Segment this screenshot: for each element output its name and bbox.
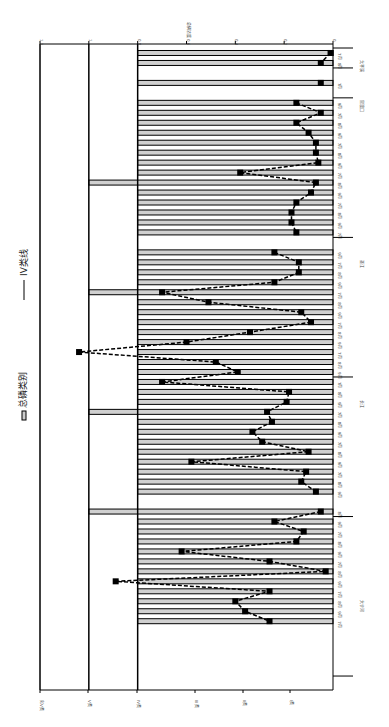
- data-point-marker: [76, 349, 82, 355]
- data-point-marker: [303, 469, 309, 475]
- data-point-marker: [308, 319, 314, 325]
- svg-text:9月: 9月: [337, 312, 342, 319]
- data-point-marker: [296, 259, 302, 265]
- svg-text:I类: I类: [289, 700, 295, 705]
- bar: [89, 409, 333, 414]
- data-point-marker: [306, 449, 312, 455]
- data-point-marker: [296, 269, 302, 275]
- svg-text:9月: 9月: [337, 372, 342, 379]
- data-point-marker: [271, 519, 277, 525]
- data-point-marker: [293, 538, 299, 544]
- data-point-marker: [313, 180, 319, 186]
- bar: [138, 60, 333, 65]
- svg-text:8月: 8月: [337, 601, 342, 608]
- bar: [138, 429, 333, 434]
- svg-text:巫江: 巫江: [359, 260, 365, 268]
- data-point-marker: [249, 429, 255, 435]
- svg-text:9月: 9月: [337, 103, 342, 110]
- bar: [138, 489, 333, 494]
- bar: [138, 350, 333, 355]
- svg-text:8月: 8月: [337, 302, 342, 309]
- bar: [138, 419, 333, 424]
- svg-text:7月: 7月: [337, 412, 342, 419]
- data-point-marker: [159, 379, 165, 385]
- bar: [89, 180, 333, 185]
- svg-text:9月: 9月: [337, 193, 342, 200]
- bar: [138, 549, 333, 554]
- svg-text:官渡口: 官渡口: [359, 100, 365, 112]
- svg-text:7月: 7月: [337, 292, 342, 299]
- data-point-marker: [306, 130, 312, 136]
- svg-text:7月: 7月: [337, 53, 342, 60]
- svg-text:7月: 7月: [337, 262, 342, 269]
- svg-text:8月: 8月: [337, 362, 342, 369]
- svg-text:9月: 9月: [337, 282, 342, 289]
- bar: [138, 459, 333, 464]
- data-point-marker: [318, 80, 324, 86]
- bar: [138, 519, 333, 524]
- bar: [138, 539, 333, 544]
- svg-text:9月: 9月: [337, 551, 342, 558]
- bar: [138, 170, 333, 175]
- svg-text:9月: 9月: [337, 163, 342, 170]
- svg-text:0.8: 0.8: [137, 39, 142, 46]
- svg-text:7月: 7月: [337, 621, 342, 628]
- svg-text:7月: 7月: [337, 442, 342, 449]
- data-point-marker: [205, 299, 211, 305]
- data-point-marker: [323, 568, 329, 574]
- svg-text:8月: 8月: [337, 422, 342, 429]
- svg-text:8月: 8月: [337, 63, 342, 70]
- svg-text:总磷浓度: 总磷浓度: [186, 22, 192, 38]
- svg-text:7月: 7月: [337, 83, 342, 90]
- bar: [138, 270, 333, 275]
- rotated-bar-line-chart: 00.20.40.60.811.2总磷浓度I类II类III类IV类V类劣V类7月…: [0, 0, 389, 727]
- svg-text:9月: 9月: [337, 252, 342, 259]
- bar: [138, 609, 333, 614]
- data-point-marker: [288, 209, 294, 215]
- svg-text:8月: 8月: [337, 541, 342, 548]
- svg-text:9月: 9月: [337, 432, 342, 439]
- data-point-marker: [293, 120, 299, 126]
- legend-line-label: IV类线: [18, 249, 29, 276]
- svg-text:9月: 9月: [337, 133, 342, 140]
- data-point-marker: [237, 170, 243, 176]
- bar: [138, 389, 333, 394]
- svg-text:9月: 9月: [337, 581, 342, 588]
- svg-text:9月: 9月: [337, 611, 342, 618]
- data-point-marker: [313, 140, 319, 146]
- svg-text:7月: 7月: [337, 382, 342, 389]
- svg-text:1.2: 1.2: [39, 39, 44, 46]
- bar: [138, 110, 333, 115]
- svg-text:8月: 8月: [337, 332, 342, 339]
- svg-text:7月: 7月: [337, 203, 342, 210]
- bar: [138, 250, 333, 255]
- bar: [138, 230, 333, 235]
- data-point-marker: [269, 419, 275, 425]
- svg-text:II类: II类: [242, 700, 248, 706]
- bar: [138, 190, 333, 195]
- data-point-marker: [318, 60, 324, 66]
- svg-text:9月: 9月: [337, 522, 342, 529]
- bar: [138, 80, 333, 85]
- svg-text:8月: 8月: [337, 571, 342, 578]
- svg-text:III类: III类: [194, 700, 200, 708]
- svg-text:V类: V类: [87, 700, 93, 707]
- svg-text:9月: 9月: [337, 402, 342, 409]
- legend-bar-label: 总磷类别: [17, 372, 28, 408]
- data-point-marker: [318, 509, 324, 515]
- data-point-marker: [179, 548, 185, 554]
- bar: [89, 290, 333, 295]
- data-point-marker: [242, 608, 248, 614]
- bar: [138, 360, 333, 365]
- legend-bar-swatch: [22, 411, 26, 420]
- data-point-marker: [232, 598, 238, 604]
- data-point-marker: [184, 339, 190, 345]
- bar: [138, 120, 333, 125]
- data-point-marker: [267, 558, 273, 564]
- svg-text:9月: 9月: [337, 462, 342, 469]
- data-point-marker: [313, 150, 319, 156]
- svg-text:9月: 9月: [337, 342, 342, 349]
- data-point-marker: [288, 219, 294, 225]
- line-series: [76, 50, 333, 624]
- svg-text:长江: 长江: [359, 400, 365, 408]
